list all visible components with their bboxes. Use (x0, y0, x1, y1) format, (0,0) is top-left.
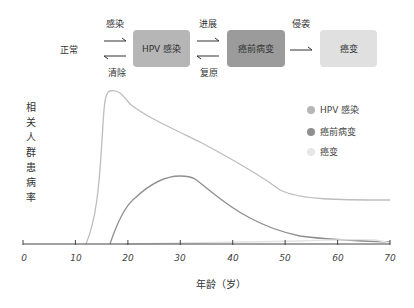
x-tick-70: 70 (384, 253, 395, 263)
x-tick-10: 10 (70, 253, 81, 263)
precancer-box: 癌前病变 (227, 30, 285, 67)
x-tick-0: 0 (21, 253, 27, 263)
hpv-infection-box-label: HPV 感染 (142, 42, 181, 55)
legend-dot-icon (307, 106, 315, 114)
cancer-box: 癌变 (320, 30, 377, 67)
precancer-curve (110, 176, 390, 244)
legend-label: 癌变 (320, 145, 338, 158)
hpv-infection-box: HPV 感染 (133, 30, 190, 67)
x-tick-50: 50 (279, 253, 290, 263)
invade-label: 侵袭 (292, 17, 310, 30)
legend-item-hpv: HPV 感染 (307, 103, 359, 116)
precancer-box-label: 癌前病变 (238, 42, 274, 55)
legend-label: 癌前病变 (320, 125, 356, 138)
regress-label: 复原 (200, 66, 218, 79)
cancer-box-label: 癌变 (340, 42, 358, 55)
progress-label: 进展 (199, 17, 217, 30)
legend-dot-icon (307, 148, 315, 156)
legend-item-precancer: 癌前病变 (307, 125, 356, 138)
cancer-curve (125, 240, 390, 244)
x-axis-label: 年龄（岁） (196, 276, 246, 291)
legend-label: HPV 感染 (320, 103, 359, 116)
x-tick-20: 20 (122, 253, 133, 263)
x-tick-30: 30 (174, 253, 185, 263)
x-tick-60: 60 (332, 253, 343, 263)
x-tick-40: 40 (227, 253, 238, 263)
legend-item-cancer: 癌变 (307, 145, 338, 158)
legend-dot-icon (307, 128, 315, 136)
